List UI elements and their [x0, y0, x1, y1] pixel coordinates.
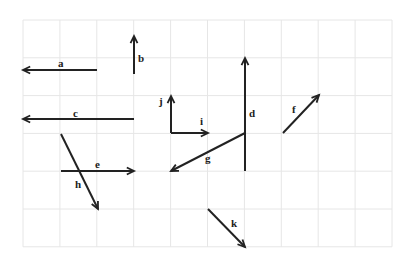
vector-label: i: [200, 115, 203, 127]
vector-i: i: [171, 115, 208, 136]
vector-label: b: [138, 52, 144, 64]
vector-label: a: [58, 57, 64, 69]
vector-shaft: [208, 209, 245, 247]
vector-diagram: abcdefghijk: [0, 0, 408, 260]
vector-label: j: [158, 95, 163, 107]
vector-c: c: [23, 107, 134, 122]
vector-label: c: [73, 107, 78, 119]
vector-label: d: [249, 107, 255, 119]
vector-e: e: [61, 158, 134, 174]
vector-label: h: [75, 178, 81, 190]
vector-grid-figure: abcdefghijk: [0, 0, 408, 260]
vector-label: f: [292, 103, 296, 115]
vector-shaft: [283, 95, 319, 133]
vector-f: f: [283, 95, 319, 133]
vector-label: k: [231, 217, 238, 229]
vector-label: g: [205, 152, 211, 164]
vector-d: d: [242, 58, 256, 171]
vector-k: k: [208, 209, 245, 247]
vector-j: j: [158, 95, 174, 133]
vector-b: b: [131, 36, 145, 74]
vector-label: e: [95, 158, 100, 170]
